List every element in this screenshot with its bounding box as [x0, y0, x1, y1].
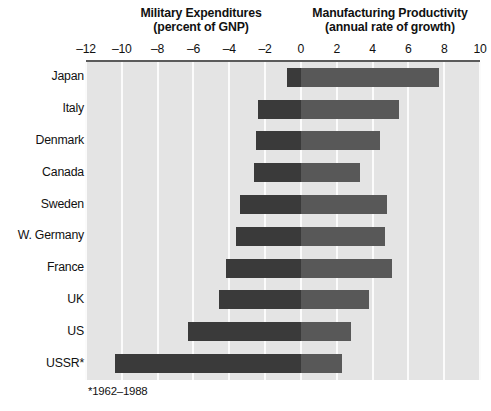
chart-row	[86, 348, 480, 380]
military-column-title: Military Expenditures (percent of GNP)	[106, 7, 296, 34]
manufacturing-productivity-bar	[301, 131, 380, 150]
military-expenditure-bar	[188, 322, 301, 341]
manufacturing-productivity-bar	[301, 227, 385, 246]
category-label: Italy	[0, 101, 84, 115]
x-tick-label: –2	[250, 42, 280, 56]
productivity-title-line1: Manufacturing Productivity	[290, 7, 490, 21]
manufacturing-productivity-bar	[301, 100, 400, 119]
category-label: Japan	[0, 69, 84, 83]
category-label: UK	[0, 292, 84, 306]
chart-row	[86, 252, 480, 284]
manufacturing-productivity-bar	[301, 259, 392, 278]
x-tick-label: 4	[358, 42, 388, 56]
x-axis-tick-labels: –12–10–8–6–4–20246810	[0, 42, 491, 58]
chart-container: Military Expenditures (percent of GNP) M…	[0, 0, 491, 411]
category-label: Denmark	[0, 133, 84, 147]
category-labels: JapanItalyDenmarkCanadaSwedenW. GermanyF…	[0, 62, 84, 380]
x-tick-label: –4	[214, 42, 244, 56]
manufacturing-productivity-bar	[301, 163, 360, 182]
x-tick-label: 10	[465, 42, 491, 56]
category-label: US	[0, 324, 84, 338]
military-expenditure-bar	[226, 259, 301, 278]
x-tick-label: –6	[178, 42, 208, 56]
military-expenditure-bar	[254, 163, 301, 182]
manufacturing-productivity-bar	[301, 322, 351, 341]
military-expenditure-bar	[256, 131, 301, 150]
category-label: W. Germany	[0, 228, 84, 242]
military-expenditure-bar	[219, 290, 301, 309]
military-expenditure-bar	[258, 100, 301, 119]
category-label: France	[0, 260, 84, 274]
chart-row	[86, 189, 480, 221]
productivity-column-title: Manufacturing Productivity (annual rate …	[290, 7, 490, 34]
military-expenditure-bar	[115, 354, 301, 373]
x-tick-label: –8	[143, 42, 173, 56]
category-label: Canada	[0, 165, 84, 179]
footnote: *1962–1988	[88, 385, 147, 397]
manufacturing-productivity-bar	[301, 290, 369, 309]
military-expenditure-bar	[236, 227, 300, 246]
plot-area: JapanItalyDenmarkCanadaSwedenW. GermanyF…	[86, 62, 480, 380]
x-tick-label: 2	[322, 42, 352, 56]
chart-row	[86, 157, 480, 189]
x-tick-label: 0	[286, 42, 316, 56]
chart-row	[86, 93, 480, 125]
category-label: USSR*	[0, 356, 84, 370]
military-expenditure-bar	[240, 195, 301, 214]
military-title-line1: Military Expenditures	[106, 7, 296, 21]
x-tick-label: 6	[393, 42, 423, 56]
productivity-title-line2: (annual rate of growth)	[290, 21, 490, 35]
chart-row	[86, 62, 480, 94]
chart-row	[86, 284, 480, 316]
x-tick-label: –10	[107, 42, 137, 56]
chart-row	[86, 316, 480, 348]
manufacturing-productivity-bar	[301, 68, 439, 87]
category-label: Sweden	[0, 197, 84, 211]
military-title-line2: (percent of GNP)	[106, 21, 296, 35]
military-expenditure-bar	[287, 68, 301, 87]
chart-row	[86, 221, 480, 253]
x-tick-label: –12	[71, 42, 101, 56]
manufacturing-productivity-bar	[301, 195, 387, 214]
manufacturing-productivity-bar	[301, 354, 342, 373]
x-tick-label: 8	[429, 42, 459, 56]
chart-row	[86, 125, 480, 157]
